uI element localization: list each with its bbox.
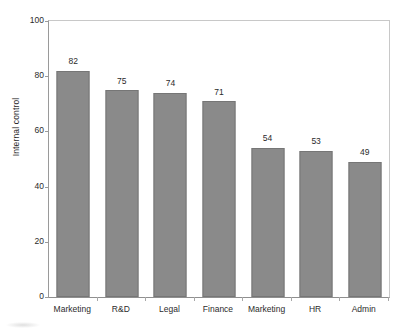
x-axis-category-label: R&D	[97, 304, 146, 314]
bar-value-label: 74	[166, 79, 175, 88]
y-axis-tick-mark	[45, 131, 49, 132]
y-axis-tick-mark	[45, 187, 49, 188]
bar-value-label: 54	[263, 134, 272, 143]
x-axis-category-labels: MarketingR&DLegalFinanceMarketingHRAdmin	[48, 304, 389, 320]
y-axis-tick-label: 60	[20, 126, 44, 135]
x-axis-tick-mark	[194, 297, 195, 301]
x-axis-tick-mark	[145, 297, 146, 301]
x-axis-category-label: Marketing	[48, 304, 97, 314]
bar-value-label: 53	[311, 137, 320, 146]
x-axis-tick-mark	[291, 297, 292, 301]
x-axis-tick-mark	[97, 297, 98, 301]
bar[interactable]	[57, 71, 90, 297]
bar-group: 75	[98, 21, 147, 297]
bar-value-label: 49	[360, 148, 369, 157]
y-axis-tick-labels: 100806040200	[18, 0, 44, 333]
bar-group: 74	[146, 21, 195, 297]
bars-layer: 82757471545349	[49, 21, 389, 297]
x-axis-tick-marks	[48, 297, 389, 302]
x-axis-tick-mark	[242, 297, 243, 301]
bar[interactable]	[348, 162, 381, 297]
bar-group: 49	[340, 21, 389, 297]
bar-group: 53	[292, 21, 341, 297]
x-axis-category-label: Legal	[145, 304, 194, 314]
bar[interactable]	[154, 93, 187, 297]
bar[interactable]	[202, 101, 235, 297]
y-axis-tick-label: 40	[20, 182, 44, 191]
bar-group: 54	[243, 21, 292, 297]
y-axis-tick-label: 100	[20, 16, 44, 25]
x-axis-category-label: Admin	[339, 304, 388, 314]
y-axis-tick-label: 0	[20, 292, 44, 301]
bar-value-label: 82	[69, 57, 78, 66]
bar-value-label: 75	[117, 77, 126, 86]
x-axis-category-label: Finance	[194, 304, 243, 314]
x-axis-category-label: HR	[291, 304, 340, 314]
y-axis-tick-mark	[45, 21, 49, 22]
y-axis-tick-mark	[45, 242, 49, 243]
bar-group: 71	[195, 21, 244, 297]
y-axis-tick-label: 20	[20, 237, 44, 246]
plot-area: 82757471545349	[48, 20, 390, 298]
x-axis-tick-mark	[388, 297, 389, 301]
bar-chart-figure: Internal control 100806040200 8275747154…	[0, 0, 402, 333]
x-axis-tick-mark	[339, 297, 340, 301]
bar[interactable]	[105, 90, 138, 297]
bar-group: 82	[49, 21, 98, 297]
x-axis-category-label: Marketing	[242, 304, 291, 314]
y-axis-tick-label: 80	[20, 71, 44, 80]
y-axis-tick-mark	[45, 76, 49, 77]
bar[interactable]	[251, 148, 284, 297]
bar-value-label: 71	[214, 88, 223, 97]
bar[interactable]	[300, 151, 333, 297]
scan-artifact-smudge	[6, 322, 40, 328]
